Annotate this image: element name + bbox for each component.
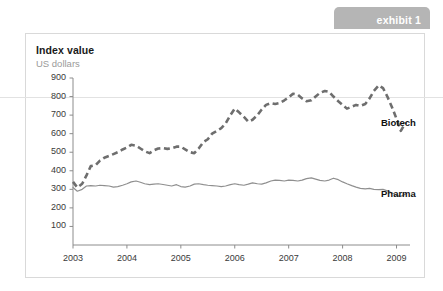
y-tick-marks	[70, 78, 74, 226]
x-tick-label: 2008	[323, 253, 363, 263]
y-tick-label: 400	[40, 165, 66, 175]
y-tick-label: 100	[40, 220, 66, 230]
exhibit-tab-label: exhibit 1	[377, 14, 421, 26]
y-tick-label: 700	[40, 109, 66, 119]
x-tick-label: 2004	[107, 253, 147, 263]
x-tick-label: 2007	[269, 253, 309, 263]
chart-plot	[25, 33, 425, 278]
axis-group	[73, 78, 410, 245]
y-tick-label: 800	[40, 91, 66, 101]
series-label-biotech: Biotech	[381, 117, 416, 128]
y-tick-label: 900	[40, 72, 66, 82]
y-tick-label: 500	[40, 146, 66, 156]
y-tick-label: 600	[40, 128, 66, 138]
x-tick-label: 2003	[53, 253, 93, 263]
x-tick-marks	[73, 245, 397, 249]
x-tick-label: 2009	[377, 253, 417, 263]
exhibit-tab: exhibit 1	[334, 7, 430, 29]
x-tick-label: 2005	[161, 253, 201, 263]
y-tick-label: 200	[40, 202, 66, 212]
series-label-pharma: Pharma	[381, 188, 416, 199]
x-tick-label: 2006	[215, 253, 255, 263]
series-line-pharma	[73, 178, 406, 197]
y-tick-label: 300	[40, 183, 66, 193]
series-line-biotech	[73, 85, 406, 187]
